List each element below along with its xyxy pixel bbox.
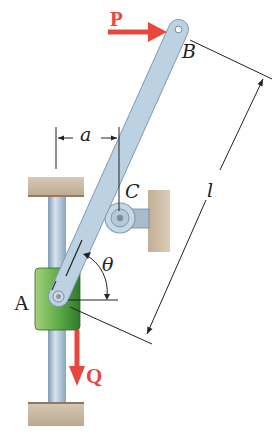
label-c: C	[125, 182, 140, 201]
label-p: P	[110, 9, 123, 30]
wall-support-c	[148, 190, 170, 252]
label-a-point: A	[14, 293, 29, 314]
force-q-arrow	[69, 330, 85, 386]
label-a-dimension: a	[80, 125, 91, 144]
label-l: l	[207, 181, 213, 200]
diagram-graphics	[0, 0, 276, 439]
top-support	[28, 177, 84, 197]
bottom-support	[28, 402, 84, 426]
label-q: Q	[86, 366, 102, 387]
label-b: B	[182, 42, 196, 61]
label-theta: θ	[102, 255, 113, 274]
mechanism-diagram: P B a C l θ A Q	[0, 0, 276, 439]
